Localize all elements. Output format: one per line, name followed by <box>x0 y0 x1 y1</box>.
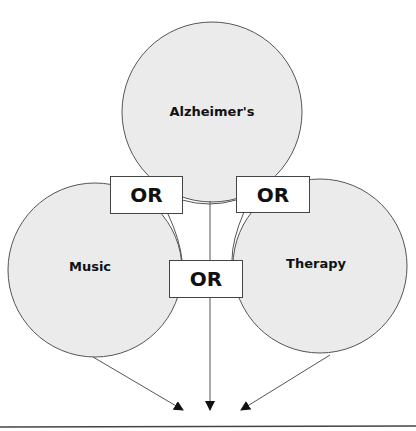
alzheimers-label: Alzheimer's <box>169 104 254 119</box>
bottom-rule <box>0 426 416 427</box>
arrow-therapy <box>241 355 330 410</box>
diagram-canvas <box>0 0 416 431</box>
or-box-middle: OR <box>169 260 243 298</box>
music-label: Music <box>69 259 111 274</box>
therapy-label: Therapy <box>286 256 346 271</box>
or-box-right: OR <box>236 176 310 213</box>
or-box-left: OR <box>110 176 183 214</box>
arrow-music <box>93 357 183 410</box>
